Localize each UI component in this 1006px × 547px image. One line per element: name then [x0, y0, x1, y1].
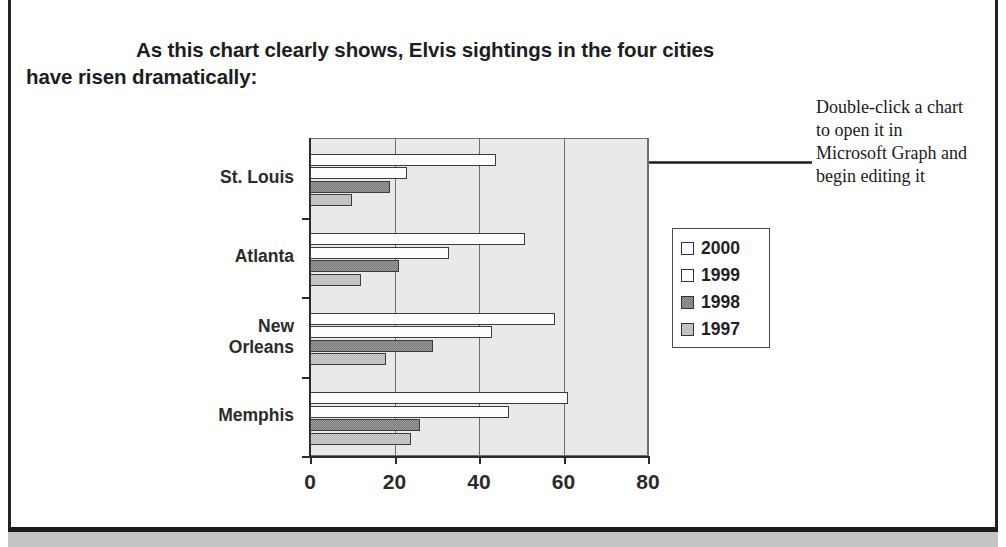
- y-tick-3: [302, 377, 310, 379]
- legend-swatch-1998: [681, 296, 694, 309]
- bar-st-louis-1998: [310, 181, 390, 193]
- bar-st-louis-1999: [310, 167, 407, 179]
- x-tick-label-60: 60: [539, 470, 589, 494]
- y-tick-4: [302, 456, 310, 458]
- legend-label-1997: 1997: [701, 319, 740, 340]
- category-label-new-orleans: NewOrleans: [174, 316, 294, 358]
- legend-item-2000[interactable]: 2000: [681, 235, 769, 262]
- legend-label-1998: 1998: [701, 292, 740, 313]
- bar-new-orleans-1998: [310, 340, 433, 352]
- bar-memphis-2000: [310, 392, 568, 404]
- x-tick-label-40: 40: [454, 470, 504, 494]
- legend-swatch-1999: [681, 269, 694, 282]
- callout-text: Double-click a chart to open it in Micro…: [816, 96, 976, 188]
- bar-st-louis-1997: [310, 194, 352, 206]
- bar-memphis-1997: [310, 433, 411, 445]
- legend-label-1999: 1999: [701, 265, 740, 286]
- legend-swatch-1997: [681, 323, 694, 336]
- bar-new-orleans-1999: [310, 326, 492, 338]
- bar-atlanta-1998: [310, 260, 399, 272]
- x-tick-80: [648, 456, 650, 464]
- legend-item-1999[interactable]: 1999: [681, 262, 769, 289]
- page-footer-band: [8, 532, 998, 547]
- gridline-60: [564, 138, 565, 456]
- legend-item-1997[interactable]: 1997: [681, 316, 769, 343]
- page-heading: As this chart clearly shows, Elvis sight…: [26, 36, 876, 90]
- page-heading-line-1: As this chart clearly shows, Elvis sight…: [26, 36, 876, 63]
- y-tick-1: [302, 218, 310, 220]
- category-label-st-louis: St. Louis: [174, 167, 294, 188]
- bar-memphis-1999: [310, 406, 509, 418]
- x-tick-0: [310, 456, 312, 464]
- legend-label-2000: 2000: [701, 238, 740, 259]
- bar-memphis-1998: [310, 419, 420, 431]
- category-label-line: Orleans: [174, 337, 294, 358]
- bar-new-orleans-2000: [310, 313, 555, 325]
- gridline-80: [648, 138, 649, 456]
- x-tick-label-80: 80: [623, 470, 673, 494]
- category-label-memphis: Memphis: [174, 405, 294, 426]
- x-tick-40: [479, 456, 481, 464]
- x-tick-20: [395, 456, 397, 464]
- category-label-line: New: [174, 316, 294, 337]
- chart-legend[interactable]: 2000199919981997: [672, 228, 770, 348]
- x-tick-60: [564, 456, 566, 464]
- legend-item-1998[interactable]: 1998: [681, 289, 769, 316]
- bar-st-louis-2000: [310, 154, 496, 166]
- legend-swatch-2000: [681, 242, 694, 255]
- bar-atlanta-1997: [310, 274, 361, 286]
- x-tick-label-20: 20: [370, 470, 420, 494]
- bar-atlanta-1999: [310, 247, 449, 259]
- bar-atlanta-2000: [310, 233, 525, 245]
- bar-new-orleans-1997: [310, 353, 386, 365]
- category-label-atlanta: Atlanta: [174, 246, 294, 267]
- x-tick-label-0: 0: [285, 470, 335, 494]
- page-heading-line-2: have risen dramatically:: [26, 63, 876, 90]
- y-tick-2: [302, 297, 310, 299]
